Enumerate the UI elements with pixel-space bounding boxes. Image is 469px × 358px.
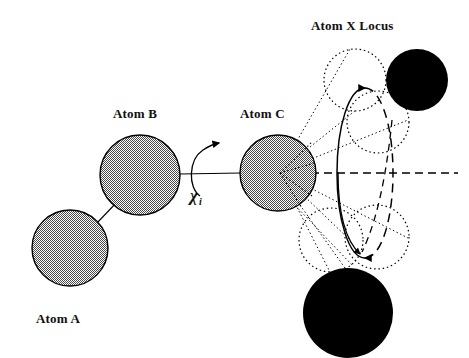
diagram-canvas [0, 0, 469, 358]
locus-ghost-circle [299, 208, 363, 272]
locus-inner-arcs [338, 120, 392, 254]
atom-a-label: Atom A [36, 311, 80, 327]
atom-b-label: Atom B [113, 106, 157, 122]
atom-locus-diagram: Atom X Locus Atom B Atom C Atom A χi [0, 0, 469, 358]
atom-x-lower [303, 268, 393, 358]
locus-ghost-circle [324, 49, 386, 111]
atom-c-label: Atom C [240, 106, 285, 122]
atom-a [32, 210, 108, 286]
atom-b [100, 135, 180, 215]
torsion-angle-label: χi [190, 186, 202, 207]
atom-x-locus-title: Atom X Locus [311, 18, 394, 34]
locus-ghost-circle [345, 205, 409, 269]
chi-symbol: χ [190, 186, 198, 205]
atom-x-upper [386, 49, 448, 111]
bond-b-c [180, 173, 241, 174]
atom-c [240, 135, 316, 211]
chi-subscript: i [198, 196, 202, 207]
